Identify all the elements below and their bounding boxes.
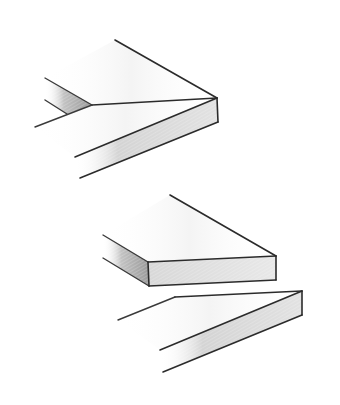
- assembled-miter-joint: [35, 40, 218, 178]
- upper-board-left-vertical-edge: [148, 262, 149, 286]
- corner-vertical-edge: [217, 98, 218, 122]
- miter-joint-diagram: [0, 0, 340, 405]
- lower-board: [118, 291, 302, 372]
- upper-board: [103, 195, 276, 286]
- separated-boards: [103, 195, 302, 372]
